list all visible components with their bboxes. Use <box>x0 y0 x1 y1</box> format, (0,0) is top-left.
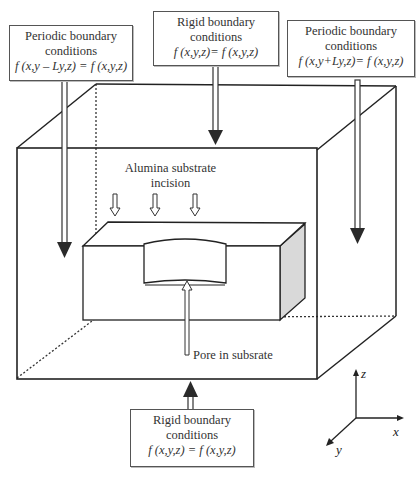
box-equation: f (x,y+Ly,z)= f (x,y,z) <box>290 54 412 69</box>
box-title-line2: conditions <box>156 30 276 45</box>
incision-label: Alumina substrate incision <box>108 161 233 191</box>
box-title-line1: Rigid boundary <box>133 413 251 428</box>
rigid-boundary-box-top: Rigid boundary conditions f (x,y,z)= f (… <box>153 11 279 66</box>
rigid-boundary-box-bottom: Rigid boundary conditions f (x,y,z) = f … <box>130 409 254 467</box>
axis-label-y: y <box>336 442 342 458</box>
box-title-line2: conditions <box>12 44 130 59</box>
box-title-line2: conditions <box>133 428 251 443</box>
incision-arrow-1 <box>110 194 120 216</box>
arrow-right-periodic <box>350 80 365 244</box>
incision-label-line1: Alumina substrate <box>108 161 233 176</box>
box-title-line1: Periodic boundary <box>290 24 412 39</box>
box-title-line2: conditions <box>290 39 412 54</box>
edge-bottom-right-diagonal <box>317 316 396 379</box>
box-title-line1: Rigid boundary <box>156 15 276 30</box>
hidden-edge-bottom-left-diagonal <box>17 318 96 378</box>
box-equation: f (x,y – Ly,z) = f (x,y,z) <box>12 59 130 74</box>
incision-label-line2: incision <box>108 176 233 191</box>
axis-label-x: x <box>393 424 399 440</box>
box-equation: f (x,y,z)= f (x,y,z) <box>156 45 276 60</box>
incision-cut <box>144 239 226 283</box>
box-title-line1: Periodic boundary <box>12 29 130 44</box>
incision-arrow-2 <box>150 194 160 216</box>
edge-top-left-diagonal <box>17 84 96 148</box>
axis-label-z: z <box>361 366 366 382</box>
arrow-top-rigid <box>208 64 223 145</box>
arrow-left-periodic <box>57 80 72 258</box>
box-equation: f (x,y,z) = f (x,y,z) <box>133 443 251 458</box>
pore-label: Pore in subsrate <box>193 348 273 363</box>
incision-arrow-3 <box>190 194 200 216</box>
periodic-boundary-box-left: Periodic boundary conditions f (x,y – Ly… <box>9 25 133 81</box>
edge-back-top <box>96 84 396 86</box>
periodic-boundary-box-right: Periodic boundary conditions f (x,y+Ly,z… <box>287 20 415 77</box>
